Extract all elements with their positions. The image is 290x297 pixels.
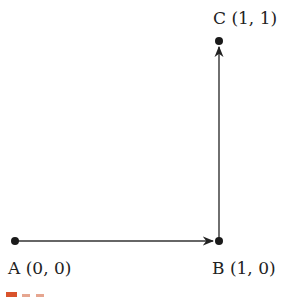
label-point-a: A (0, 0) [7, 258, 71, 278]
point-b [215, 237, 223, 245]
point-c [215, 37, 223, 45]
caption-marker [6, 292, 17, 297]
path-diagram: C (1, 1) A (0, 0) B (1, 0) [0, 0, 290, 297]
point-a [11, 237, 19, 245]
label-point-b: B (1, 0) [212, 258, 276, 278]
label-point-c: C (1, 1) [213, 8, 277, 28]
